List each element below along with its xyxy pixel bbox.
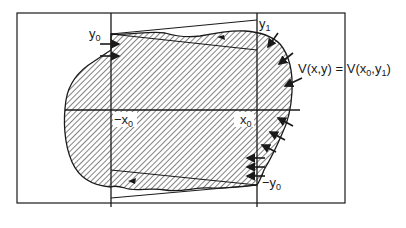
lyapunov-region-diagram: y0 y1 −x0 x0 −y0 V(x,y) = V(x0,y1) [0,0,406,228]
label-y1: y1 [259,16,271,33]
equation-label: V(x,y) = V(x0,y1) [298,61,391,78]
label-y0: y0 [89,26,101,43]
label-neg-y0: −y0 [262,175,281,192]
